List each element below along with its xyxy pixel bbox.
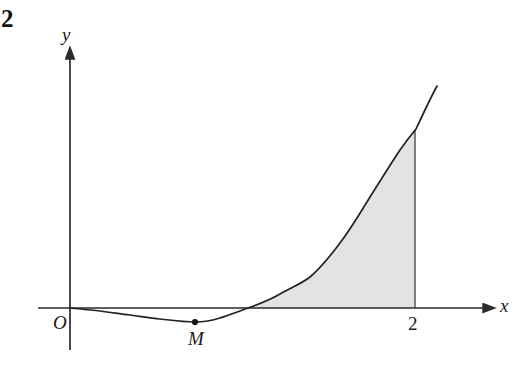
- y-axis-label: y: [62, 25, 70, 44]
- shaded-area: [248, 129, 415, 308]
- minimum-point-label: M: [188, 329, 204, 348]
- x-axis-tick-label-2: 2: [408, 314, 418, 333]
- figure-container: 2 y x O M 2: [0, 0, 526, 367]
- x-axis-label: x: [500, 296, 508, 315]
- minimum-point-marker: [192, 319, 198, 325]
- problem-number: 2: [1, 6, 14, 31]
- graph-canvas: [0, 0, 526, 367]
- origin-label: O: [53, 313, 67, 332]
